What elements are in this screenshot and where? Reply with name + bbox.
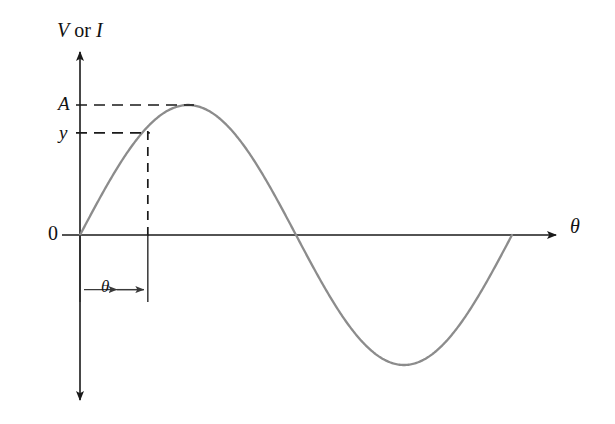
instantaneous-value-label: y (59, 123, 67, 142)
vertical-axis-label-v: V (57, 19, 69, 41)
angle-dimension-label: θ (101, 278, 109, 295)
origin-label: 0 (48, 223, 58, 243)
vertical-axis-label: V or I (57, 20, 103, 40)
horizontal-axis-label: θ (570, 216, 580, 236)
plot-canvas (0, 0, 615, 424)
sine-wave-figure: V or I A y 0 θ θ (0, 0, 615, 424)
amplitude-label: A (58, 94, 70, 113)
vertical-axis-label-i: I (96, 19, 103, 41)
vertical-axis-label-or: or (69, 19, 96, 41)
